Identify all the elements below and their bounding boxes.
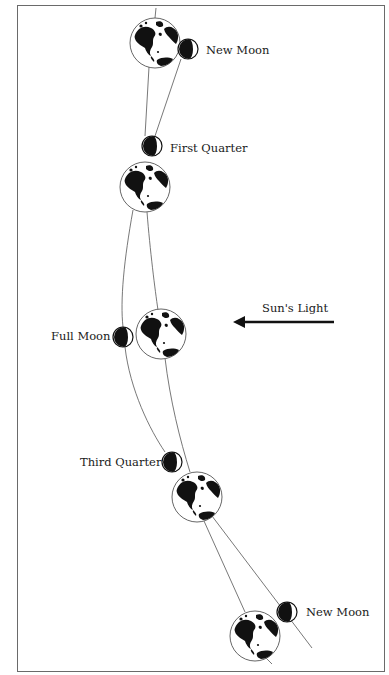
sun-light-arrow-icon xyxy=(233,316,334,328)
label-full-moon: Full Moon xyxy=(51,331,110,343)
label-third-quarter: Third Quarter xyxy=(80,457,161,469)
label-first-quarter: First Quarter xyxy=(170,143,247,155)
moon-new-icon xyxy=(277,602,297,622)
earth-globe-icon xyxy=(136,309,186,359)
earth-globe-icon xyxy=(130,18,180,68)
label-new-moon-bottom: New Moon xyxy=(306,607,369,619)
earth-globe-icon xyxy=(230,611,280,661)
earth-globe-icon xyxy=(172,472,222,522)
moon-third-quarter-icon xyxy=(162,452,182,472)
moon-first-quarter-icon xyxy=(142,136,162,156)
label-new-moon-top: New Moon xyxy=(206,45,269,57)
moon-full-icon xyxy=(113,327,133,347)
earth-globe-icon xyxy=(120,162,170,212)
moon-new-icon xyxy=(178,39,198,59)
label-sun-light: Sun's Light xyxy=(262,303,328,315)
